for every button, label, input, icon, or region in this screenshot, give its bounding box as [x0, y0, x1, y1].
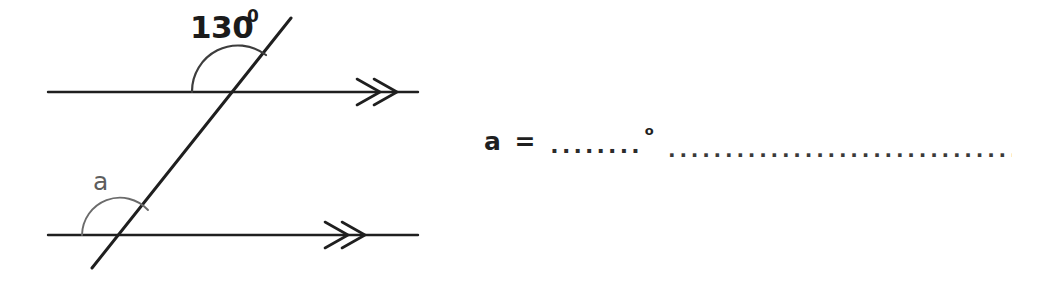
- transversal-line: [92, 18, 291, 268]
- lower-angle-arc: [82, 198, 148, 235]
- worksheet-page: 130 0 a a = ........ o .................…: [0, 0, 1049, 296]
- answer-area: a = ........ o .........................…: [450, 0, 1049, 296]
- upper-angle-arc: [192, 45, 266, 92]
- figure-canvas: 130 0 a: [0, 0, 450, 296]
- geometry-figure: 130 0 a: [0, 0, 450, 296]
- degree-symbol-icon: o: [645, 123, 654, 138]
- answer-variable-label: a: [484, 127, 501, 156]
- answer-value-blank[interactable]: ........: [550, 133, 642, 158]
- given-angle-label: 130 0: [190, 6, 259, 45]
- answer-equation-row: a = ........ o: [484, 127, 652, 156]
- given-angle-value: 130: [190, 9, 253, 45]
- unknown-angle-label: a: [93, 167, 108, 196]
- given-angle-degree-icon: 0: [247, 6, 259, 26]
- answer-working-blank[interactable]: ........................................…: [668, 146, 1012, 160]
- equals-sign: =: [514, 127, 535, 156]
